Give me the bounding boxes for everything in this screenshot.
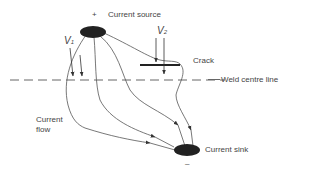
weld-line-lead — [208, 79, 220, 80]
current-source-label: Current source — [108, 11, 161, 19]
v1-text: V — [64, 35, 71, 46]
weld-centre-line-label: Weld centre line — [208, 76, 278, 84]
current-flow-label-line2: flow — [36, 126, 50, 134]
current-flow-line-2 — [94, 37, 155, 137]
current-flow-label-line1: Current — [36, 116, 63, 124]
v1-probe-1 — [70, 48, 73, 76]
v2-subscript: 2 — [164, 29, 167, 35]
plus-label: + — [92, 11, 97, 19]
minus-label: – — [185, 160, 189, 168]
v1-label: V1 — [64, 36, 74, 46]
crack-label: Crack — [193, 57, 214, 65]
v2-text: V — [157, 25, 164, 36]
current-flow-line-1 — [66, 35, 150, 143]
v1-subscript: 1 — [71, 39, 74, 45]
current-flow-line-1-tail — [150, 143, 175, 150]
current-flow-line-4 — [104, 33, 191, 130]
v2-label: V2 — [157, 26, 167, 36]
current-sink-label: Current sink — [205, 146, 248, 154]
v1-probe-2 — [80, 55, 82, 76]
current-source-electrode — [80, 26, 106, 38]
current-sink-electrode — [174, 144, 200, 156]
weld-centre-line-text: Weld centre line — [221, 75, 278, 84]
